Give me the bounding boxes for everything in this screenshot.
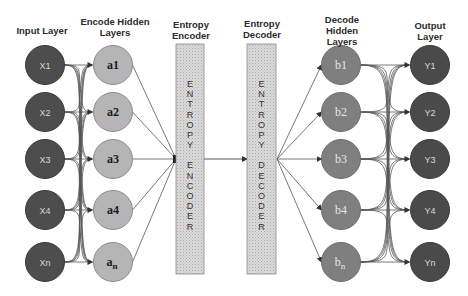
node-label: Y1	[424, 61, 435, 71]
box-letter: N	[187, 89, 194, 99]
node-label: Y3	[424, 155, 435, 165]
input-layer-title: Input Layer	[16, 25, 67, 36]
connection-line	[65, 65, 92, 210]
connection-line	[361, 210, 409, 262]
node-label: a2	[107, 105, 119, 119]
box-letter: N	[258, 89, 265, 99]
encode-node-1: a1	[94, 46, 133, 85]
box-letter: T	[259, 99, 265, 109]
arrowhead-icon	[405, 62, 411, 68]
decoder-to-decode-connections	[277, 65, 322, 262]
input-node-5: Xn	[26, 243, 65, 282]
arrowhead-icon	[88, 156, 94, 162]
output-layer-nodes: Y1Y2Y3Y4Yn	[411, 46, 450, 282]
decode-hidden-title-line3: Layers	[312, 36, 372, 47]
connection-line	[277, 65, 322, 159]
connection-line	[361, 65, 409, 112]
encode-node-4: a4	[94, 191, 133, 230]
connection-line	[65, 65, 92, 210]
arrowhead-icon	[88, 207, 94, 213]
output-node-5: Yn	[411, 243, 450, 282]
arrowhead-icon	[405, 207, 411, 213]
connection-line	[361, 159, 409, 210]
encode-node-3: a3	[94, 140, 133, 179]
node-label: b2	[335, 105, 347, 119]
arrowhead-icon	[405, 109, 411, 115]
output-layer-header: Output Layer	[400, 20, 460, 42]
decode-hidden-header: Decode Hidden Layers	[312, 14, 372, 47]
entropy-encoder-title-line1: Entropy	[160, 19, 222, 30]
output-node-3: Y3	[411, 140, 450, 179]
box-letter: O	[186, 120, 193, 130]
node-label: b1	[335, 58, 347, 72]
decode-node-1: b1	[322, 46, 361, 85]
input-to-encode-connections	[65, 62, 94, 265]
decode-node-3: b3	[322, 140, 361, 179]
connection-line	[361, 210, 409, 262]
decode-node-5: bn	[322, 243, 361, 282]
box-letter: E	[258, 79, 264, 89]
box-letter: D	[258, 160, 265, 170]
entropy-encoder-header: Entropy Encoder	[160, 19, 222, 41]
connection-line	[133, 112, 177, 159]
connection-line	[133, 159, 177, 210]
connection-line	[277, 159, 322, 210]
arrowhead-icon	[405, 259, 411, 265]
connection-line	[133, 65, 177, 159]
node-label: X1	[39, 61, 50, 71]
node-label: X4	[39, 206, 50, 216]
node-label: X2	[39, 108, 50, 118]
output-layer-title-line2: Layer	[400, 31, 460, 42]
input-node-2: X2	[26, 93, 65, 132]
connection-line	[361, 159, 409, 210]
connection-line	[361, 65, 409, 112]
node-label: b4	[335, 203, 347, 217]
arrowhead-icon	[405, 156, 411, 162]
arrowhead-icon	[88, 62, 94, 68]
connection-line	[277, 159, 322, 262]
node-label: Y4	[424, 206, 435, 216]
input-node-4: X4	[26, 191, 65, 230]
encode-to-encoder-connections	[133, 65, 177, 262]
encode-hidden-title-line2: Layers	[76, 27, 154, 38]
output-node-1: Y1	[411, 46, 450, 85]
box-letter: O	[186, 191, 193, 201]
connection-line	[277, 112, 322, 159]
box-letter: P	[258, 130, 264, 140]
node-label: Y2	[424, 108, 435, 118]
connection-line	[361, 112, 409, 159]
entropy-encoder-title-line2: Encoder	[160, 30, 222, 41]
autoencoder-diagram: ENTROPYENCODER ENTROPYDECODER X1X2X3X4Xn…	[0, 0, 468, 296]
connection-line	[65, 112, 92, 262]
arrowhead-icon	[88, 259, 94, 265]
input-node-1: X1	[26, 46, 65, 85]
output-layer-title-line1: Output	[400, 20, 460, 31]
box-letter: C	[187, 181, 194, 191]
box-letter: E	[258, 171, 264, 181]
box-letter: N	[187, 171, 194, 181]
box-letter: E	[187, 160, 193, 170]
input-layer-nodes: X1X2X3X4Xn	[26, 46, 65, 282]
entropy-decoder-title-line2: Decoder	[231, 29, 293, 40]
decode-hidden-title-line2: Hidden	[312, 25, 372, 36]
node-label: a3	[107, 152, 119, 166]
box-letter: T	[187, 99, 193, 109]
node-label: b3	[335, 152, 347, 166]
decode-to-output-connections	[361, 62, 411, 265]
node-label: a1	[107, 58, 119, 72]
encode-node-2: a2	[94, 93, 133, 132]
input-layer-header: Input Layer	[5, 25, 79, 36]
connection-line	[361, 112, 409, 262]
box-letter: D	[187, 201, 194, 211]
box-letter: O	[258, 120, 265, 130]
box-letter: D	[258, 201, 265, 211]
box-letter: E	[258, 211, 264, 221]
box-letter: R	[187, 222, 194, 232]
box-letter: O	[258, 191, 265, 201]
connection-line	[361, 112, 409, 159]
box-letter: Y	[258, 140, 264, 150]
decode-node-2: b2	[322, 93, 361, 132]
connection-line	[133, 159, 177, 262]
node-label: Xn	[39, 258, 50, 268]
entropy-decoder-title-line1: Entropy	[231, 18, 293, 29]
